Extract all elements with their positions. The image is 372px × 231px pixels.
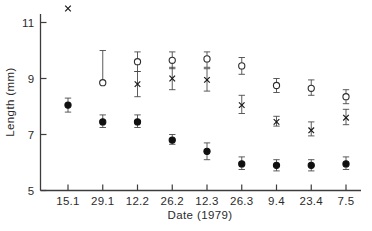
x-axis-title: Date (1979) [167,209,232,221]
x-tick-label: 23.4 [299,195,323,207]
filled-circle-marker [273,162,279,168]
scatter-chart-figure: 57911 15.129.112.226.212.326.39.423.47.5… [0,0,372,231]
x-tick-label: 26.2 [160,195,184,207]
cross-marker [65,6,71,12]
data-series-layer [65,6,349,171]
x-tick-label: 12.2 [126,195,150,207]
y-axis-title: Length (mm) [4,67,16,137]
filled-circle-marker [169,137,175,143]
x-tick-label: 12.3 [195,195,219,207]
filled-circle-marker [100,119,106,125]
filled-circle-marker [308,162,314,168]
open-circle-marker [204,56,210,62]
x-tick-label: 7.5 [338,195,355,207]
x-axis-ticks: 15.129.112.226.212.326.39.423.47.5 [56,185,354,207]
y-tick-label: 5 [28,185,35,197]
open-circle-marker [100,80,106,86]
x-tick-label: 15.1 [56,195,80,207]
x-tick-label: 9.4 [268,195,285,207]
series-cross [65,6,349,136]
open-circle-marker [239,63,245,69]
open-circle-marker [273,82,279,88]
open-circle-marker [308,85,314,91]
y-axis-ticks: 57911 [22,17,47,197]
open-circle-marker [343,94,349,100]
filled-circle-marker [343,161,349,167]
y-tick-label: 11 [22,17,35,29]
filled-circle-marker [204,148,210,154]
open-circle-marker [169,57,175,63]
filled-circle-marker [134,119,140,125]
series-filled-circle [65,98,349,171]
series-open-circle [100,51,350,104]
filled-circle-marker [239,161,245,167]
x-tick-label: 29.1 [91,195,115,207]
filled-circle-marker [65,102,71,108]
y-tick-label: 7 [28,129,35,141]
x-tick-label: 26.3 [230,195,254,207]
y-tick-label: 9 [28,73,35,85]
chart-canvas: 57911 15.129.112.226.212.326.39.423.47.5… [0,0,372,231]
open-circle-marker [134,59,140,65]
